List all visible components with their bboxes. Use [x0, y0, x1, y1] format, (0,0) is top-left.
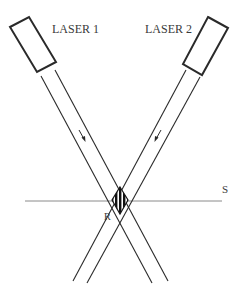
laser2-beam-edge-right: [87, 77, 200, 283]
laser-interference-diagram: LASER 1 LASER 2 S R: [0, 0, 240, 286]
laser1-label: LASER 1: [52, 22, 99, 36]
laser1-beam-edge-left: [41, 76, 152, 283]
surface-label: S: [222, 183, 228, 195]
laser1-arrow-icon: [79, 130, 86, 142]
laser1-box: [10, 17, 56, 72]
laser2-label: LASER 2: [145, 22, 192, 36]
region-label: R: [104, 211, 111, 222]
laser2-beam-edge-left: [73, 70, 186, 281]
laser1-beam-edge-right: [55, 70, 168, 281]
laser2-arrow-icon: [155, 130, 162, 142]
